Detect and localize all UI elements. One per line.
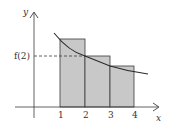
- x-tick-1: 1: [58, 110, 64, 120]
- y-axis-label: y: [22, 7, 29, 17]
- diagram-canvas: y x f(2) 1 2 3 4: [0, 0, 169, 130]
- x-axis-label: x: [156, 113, 161, 123]
- x-tick-4: 4: [132, 110, 138, 120]
- riemann-sum-diagram: y x f(2) 1 2 3 4: [0, 0, 169, 130]
- f2-label: f(2): [14, 51, 30, 61]
- x-tick-2: 2: [83, 110, 89, 120]
- rectangle-3-4: [110, 66, 134, 107]
- rectangle-2-3: [85, 56, 110, 107]
- rectangle-1-2: [60, 39, 85, 107]
- x-tick-3: 3: [108, 110, 114, 120]
